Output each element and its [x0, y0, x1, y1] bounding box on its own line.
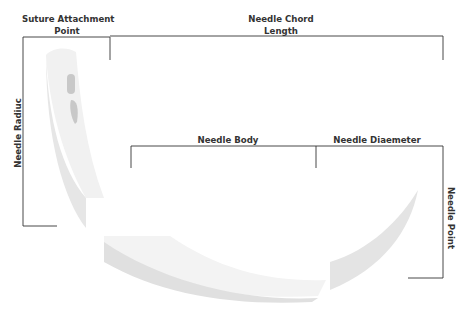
needle-point-end	[330, 190, 418, 290]
needle-diameter-label: Needle Diaemeter	[327, 134, 427, 146]
suture-attachment-label-line1: Suture Attachment	[22, 13, 112, 25]
needle-diagram-art	[0, 0, 462, 322]
needle-body-label: Needle Body	[183, 134, 273, 146]
suture-attachment-label-line2: Point	[22, 25, 112, 37]
needle-point-label: Needle Point	[445, 173, 457, 263]
chord-length-label-line1: Needle Chord	[236, 13, 326, 25]
needle-illustration	[46, 48, 418, 302]
chord-length-label-line2: Length	[236, 25, 326, 37]
chord-length-bracket	[110, 36, 443, 60]
swage-slot-1	[67, 74, 75, 94]
suture-attachment-label: Suture Attachment Point	[22, 13, 112, 37]
chord-length-label: Needle Chord Length	[236, 13, 326, 37]
needle-body-bracket	[131, 146, 316, 168]
needle-radius-label: Needle Radiuc	[12, 88, 24, 178]
